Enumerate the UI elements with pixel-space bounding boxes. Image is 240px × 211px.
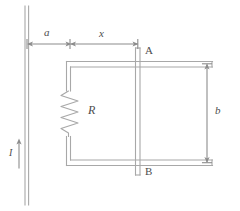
label-resistor-r: R [88,104,95,116]
dimension-x [70,41,139,46]
label-rail-separation-b: b [215,105,221,116]
label-distance-a: a [44,27,50,38]
resistor-R [61,91,78,137]
figure-canvas [0,0,240,211]
long-straight-wire [25,6,29,205]
label-current-i: I [9,148,12,158]
label-terminal-a: A [145,45,153,56]
label-terminal-b: B [145,166,152,177]
dimension-line-horizontal [27,40,139,49]
physics-figure: a x A B R b I [0,0,240,211]
dimension-a [27,40,72,49]
current-arrow-I [16,139,21,169]
left-return-conductor [67,62,71,166]
label-distance-x: x [99,28,104,39]
dimension-b [203,64,212,164]
